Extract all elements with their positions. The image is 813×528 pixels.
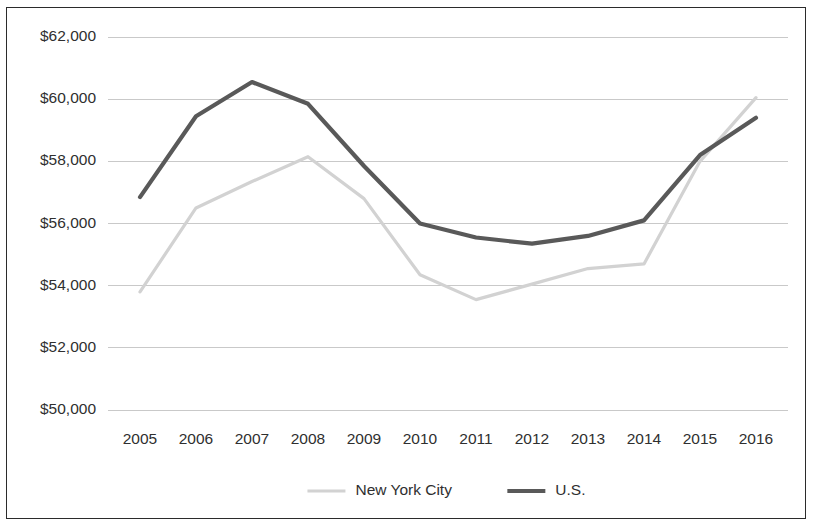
chart-legend: New York CityU.S. <box>307 481 585 498</box>
legend-label: New York City <box>355 481 452 498</box>
series-line-u-s <box>140 82 756 244</box>
y-axis-tick-labels: $50,000$52,000$54,000$56,000$58,000$60,0… <box>40 27 96 417</box>
x-axis-tick-label: 2016 <box>739 430 773 447</box>
gridlines <box>108 37 788 410</box>
x-axis-tick-label: 2015 <box>683 430 717 447</box>
x-axis-tick-label: 2006 <box>179 430 213 447</box>
y-axis-tick-label: $62,000 <box>40 27 96 44</box>
y-axis-tick-label: $54,000 <box>40 276 96 293</box>
line-chart: $50,000$52,000$54,000$56,000$58,000$60,0… <box>0 0 813 528</box>
x-axis-tick-label: 2009 <box>347 430 381 447</box>
y-axis-tick-label: $50,000 <box>40 400 96 417</box>
plot-area: $50,000$52,000$54,000$56,000$58,000$60,0… <box>0 0 813 528</box>
x-axis-tick-label: 2010 <box>403 430 438 447</box>
series-lines <box>140 82 756 300</box>
x-axis-tick-label: 2012 <box>515 430 549 447</box>
y-axis-tick-label: $58,000 <box>40 151 96 168</box>
x-axis-tick-label: 2005 <box>123 430 157 447</box>
x-axis-tick-label: 2011 <box>459 430 492 447</box>
y-axis-tick-label: $56,000 <box>40 214 96 231</box>
legend-label: U.S. <box>555 481 585 498</box>
chart-figure: $50,000$52,000$54,000$56,000$58,000$60,0… <box>0 0 813 528</box>
x-axis-tick-label: 2007 <box>235 430 269 447</box>
x-axis-tick-label: 2013 <box>571 430 605 447</box>
x-axis-tick-labels: 2005200620072008200920102011201220132014… <box>123 430 773 447</box>
y-axis-tick-label: $52,000 <box>40 338 96 355</box>
x-axis-tick-label: 2008 <box>291 430 325 447</box>
y-axis-tick-label: $60,000 <box>40 89 96 106</box>
x-axis-tick-label: 2014 <box>627 430 662 447</box>
